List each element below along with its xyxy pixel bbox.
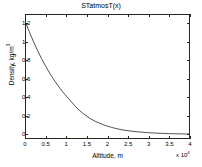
x-tick-label: 0 — [23, 141, 26, 147]
y-tick-label: 1.2 — [22, 20, 30, 26]
x-tick-label: 2.5 — [124, 141, 132, 147]
x-tick-mark — [190, 136, 191, 139]
x-tick-mark — [46, 136, 47, 139]
x-exponent-power: 4 — [187, 150, 189, 155]
x-tick-mark — [46, 14, 47, 17]
density-curve — [25, 14, 190, 139]
plot-axes — [25, 14, 190, 139]
y-tick-mark — [187, 60, 190, 61]
y-axis-label: Density, kg/m3 — [8, 25, 15, 105]
x-tick-mark — [149, 14, 150, 17]
y-axis-label-exponent: 3 — [6, 44, 11, 47]
x-tick-mark — [66, 136, 67, 139]
x-tick-mark — [169, 136, 170, 139]
y-tick-mark — [187, 97, 190, 98]
x-tick-mark — [108, 136, 109, 139]
y-tick-mark — [187, 116, 190, 117]
y-tick-label: 0.2 — [22, 113, 30, 119]
x-tick-label: 1 — [65, 141, 68, 147]
x-tick-label: 3 — [147, 141, 150, 147]
figure-canvas: STatmosT(x) 00.511.522.533.54 00.20.40.6… — [0, 0, 202, 167]
x-tick-mark — [149, 136, 150, 139]
y-tick-mark — [187, 134, 190, 135]
x-tick-label: 0.5 — [41, 141, 49, 147]
x-tick-mark — [128, 136, 129, 139]
y-tick-label: 0.6 — [22, 76, 30, 82]
y-tick-mark — [187, 23, 190, 24]
x-tick-mark — [108, 14, 109, 17]
y-axis-label-text: Density, kg/m — [8, 46, 15, 85]
x-tick-label: 1.5 — [83, 141, 91, 147]
y-tick-label: 0.4 — [22, 94, 30, 100]
y-tick-label: 1 — [22, 39, 25, 45]
y-tick-mark — [187, 79, 190, 80]
y-tick-mark — [187, 42, 190, 43]
x-tick-label: 2 — [106, 141, 109, 147]
x-tick-mark — [190, 14, 191, 17]
y-tick-mark — [25, 42, 28, 43]
y-tick-label: 0.8 — [22, 57, 30, 63]
x-tick-mark — [128, 14, 129, 17]
x-axis-exponent: x 104 — [176, 152, 190, 158]
x-exponent-base: x 10 — [176, 152, 187, 158]
y-tick-label: 0 — [22, 131, 25, 137]
x-tick-mark — [25, 14, 26, 17]
page-title: STatmosT(x) — [0, 2, 202, 9]
x-tick-mark — [87, 136, 88, 139]
x-tick-mark — [66, 14, 67, 17]
x-tick-mark — [169, 14, 170, 17]
x-tick-label: 4 — [188, 141, 191, 147]
y-tick-mark — [25, 134, 28, 135]
x-axis-label: Altitude, m — [25, 152, 190, 159]
x-tick-mark — [87, 14, 88, 17]
x-tick-label: 3.5 — [165, 141, 173, 147]
